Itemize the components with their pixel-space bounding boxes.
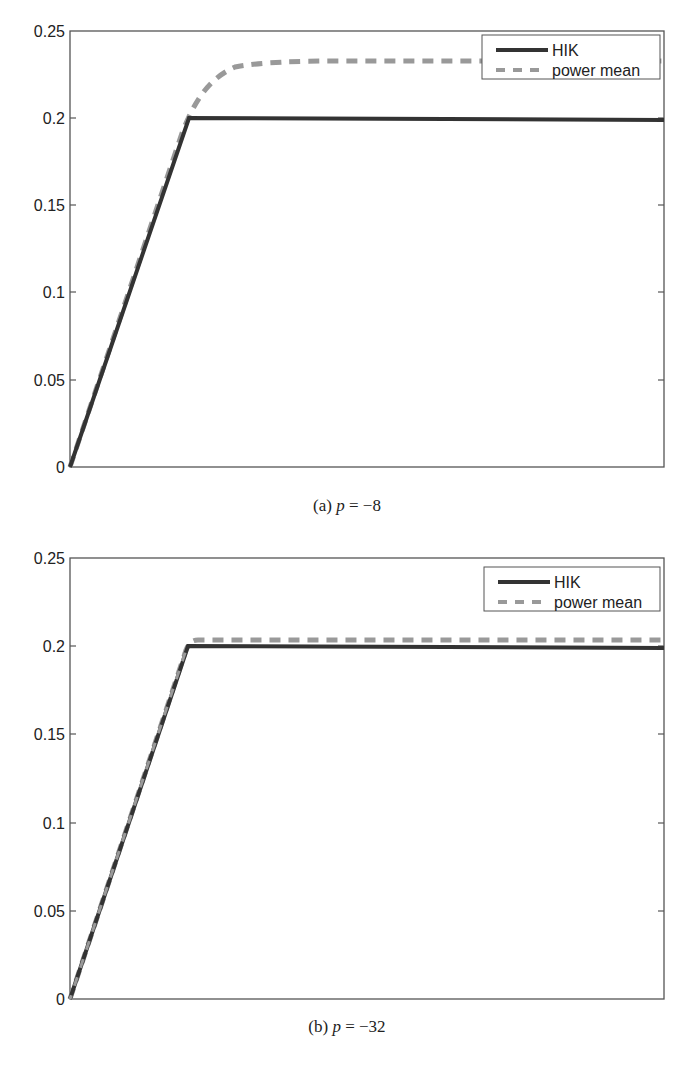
y-ticks (70, 646, 664, 911)
y-tick-label: 0.2 (43, 110, 65, 127)
caption-prefix: (b) (308, 1017, 328, 1036)
caption-a: (a) p = −8 (0, 496, 694, 516)
plot-area-frame (70, 558, 664, 999)
y-tick-label: 0 (56, 459, 65, 476)
chart-a-svg: 0.25 0.2 0.15 0.1 0.05 0 HIK power mean (0, 0, 694, 500)
series-hik (70, 646, 664, 999)
y-tick-label: 0.1 (43, 815, 65, 832)
y-tick-label: 0.15 (34, 726, 65, 743)
caption-equals: = (345, 1017, 355, 1036)
series-hik (70, 118, 664, 467)
legend-label-hik: HIK (554, 574, 581, 591)
y-tick-label: 0.15 (34, 197, 65, 214)
series-power-mean-line (70, 61, 664, 467)
y-tick-labels: 0.25 0.2 0.15 0.1 0.05 0 (34, 550, 65, 1008)
chart-panel-a: 0.25 0.2 0.15 0.1 0.05 0 HIK power mean … (0, 0, 694, 520)
caption-value: −8 (363, 496, 381, 515)
y-tick-label: 0.05 (34, 372, 65, 389)
y-tick-label: 0.25 (34, 550, 65, 567)
series-power-mean (70, 640, 664, 999)
y-tick-label: 0.2 (43, 638, 65, 655)
y-ticks (70, 118, 664, 380)
chart-panel-b: 0.25 0.2 0.15 0.1 0.05 0 HIK power mean … (0, 527, 694, 1072)
legend-label-power-mean: power mean (552, 62, 640, 79)
caption-variable: p (336, 496, 345, 515)
caption-equals: = (349, 496, 359, 515)
chart-b-svg: 0.25 0.2 0.15 0.1 0.05 0 HIK power mean (0, 527, 694, 1027)
caption-value: −32 (359, 1017, 386, 1036)
y-tick-label: 0.1 (43, 284, 65, 301)
caption-b: (b) p = −32 (0, 1017, 694, 1037)
legend: HIK power mean (484, 567, 660, 611)
y-tick-labels: 0.25 0.2 0.15 0.1 0.05 0 (34, 23, 65, 476)
plot-area-frame (70, 31, 664, 467)
caption-prefix: (a) (313, 496, 332, 515)
series-power-mean (70, 61, 664, 467)
legend-label-hik: HIK (552, 42, 579, 59)
y-tick-label: 0 (56, 991, 65, 1008)
y-tick-label: 0.05 (34, 903, 65, 920)
caption-variable: p (332, 1017, 341, 1036)
legend-label-power-mean: power mean (554, 594, 642, 611)
y-tick-label: 0.25 (34, 23, 65, 40)
legend: HIK power mean (482, 35, 660, 79)
